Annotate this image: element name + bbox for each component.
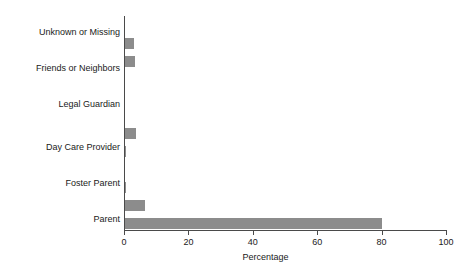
x-tick-mark — [446, 231, 447, 235]
bar — [124, 38, 134, 49]
y-label-legal-guardian: Legal Guardian — [58, 99, 120, 109]
y-axis-line — [124, 16, 125, 230]
y-label-foster-parent: Foster Parent — [65, 178, 120, 188]
y-label-parent: Parent — [93, 214, 120, 224]
y-label-day-care-provider: Day Care Provider — [46, 142, 120, 152]
x-tick-mark — [188, 231, 189, 235]
bar-row — [124, 110, 446, 121]
chart-figure: Unknown or Missing Friends or Neighbors … — [0, 0, 471, 279]
x-tick-mark — [382, 231, 383, 235]
y-label-friends-or-neighbors: Friends or Neighbors — [36, 63, 120, 73]
x-tick-label: 0 — [121, 237, 126, 247]
x-tick-label: 20 — [183, 237, 193, 247]
x-tick-label: 80 — [377, 237, 387, 247]
bar-row — [124, 146, 446, 157]
x-axis-title: Percentage — [0, 252, 471, 262]
plot-area — [124, 16, 446, 229]
bar-row — [124, 218, 446, 229]
bar — [124, 56, 135, 67]
y-axis-category-labels: Unknown or Missing Friends or Neighbors … — [0, 0, 120, 279]
x-tick-label: 40 — [248, 237, 258, 247]
x-axis-line — [124, 230, 447, 231]
x-axis-title-text: Percentage — [242, 252, 288, 262]
bar-row — [124, 128, 446, 139]
x-tick-mark — [317, 231, 318, 235]
bar-row — [124, 200, 446, 211]
bar-row — [124, 182, 446, 193]
bar — [124, 200, 145, 211]
bar-row — [124, 56, 446, 67]
bar-row — [124, 38, 446, 49]
y-label-unknown-or-missing: Unknown or Missing — [39, 27, 120, 37]
x-tick-mark — [124, 231, 125, 235]
bar-row — [124, 92, 446, 103]
x-tick-label: 60 — [312, 237, 322, 247]
x-tick-mark — [253, 231, 254, 235]
bar-row — [124, 164, 446, 175]
bar-row — [124, 74, 446, 85]
x-tick-label: 100 — [438, 237, 453, 247]
bar — [124, 218, 382, 229]
bar — [124, 128, 136, 139]
